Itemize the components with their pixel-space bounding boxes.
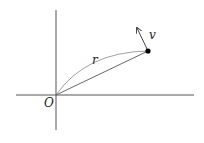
position-vector-label: r (92, 53, 99, 67)
velocity-label: v (149, 28, 156, 42)
velocity-vector-arrow (137, 28, 148, 51)
origin-label: O (44, 96, 54, 110)
diagram-canvas: v r O (0, 0, 204, 143)
moving-point (145, 48, 150, 53)
position-vector-line (56, 51, 148, 95)
